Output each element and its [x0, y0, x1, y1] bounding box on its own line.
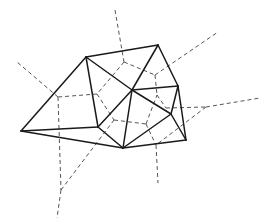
- voronoi-edges: [17, 10, 260, 218]
- delaunay-edges: [21, 45, 186, 148]
- voronoi-edge: [97, 94, 114, 120]
- voronoi-edge: [146, 124, 156, 145]
- voronoi-edge: [114, 120, 146, 124]
- voronoi-edge: [58, 94, 97, 97]
- voronoi-edge: [206, 98, 260, 107]
- voronoi-edge: [61, 120, 114, 190]
- voronoi-edge: [155, 32, 218, 75]
- delaunay-edge: [86, 57, 98, 127]
- delaunay-voronoi-diagram: [0, 0, 270, 224]
- delaunay-edge: [21, 127, 98, 131]
- delaunay-edge: [21, 57, 86, 131]
- voronoi-edge: [156, 107, 206, 145]
- delaunay-edge: [132, 45, 158, 90]
- delaunay-edge: [86, 45, 158, 57]
- voronoi-edge: [115, 10, 124, 62]
- delaunay-edge: [21, 131, 123, 148]
- voronoi-edge: [156, 145, 158, 183]
- voronoi-edge: [155, 75, 157, 95]
- delaunay-edge: [171, 86, 178, 114]
- voronoi-edge: [97, 62, 124, 94]
- voronoi-edge: [17, 62, 58, 97]
- voronoi-edge: [58, 97, 61, 190]
- delaunay-edge: [132, 86, 178, 90]
- voronoi-edge: [124, 62, 155, 75]
- delaunay-edge: [158, 45, 178, 86]
- voronoi-edge: [57, 190, 61, 218]
